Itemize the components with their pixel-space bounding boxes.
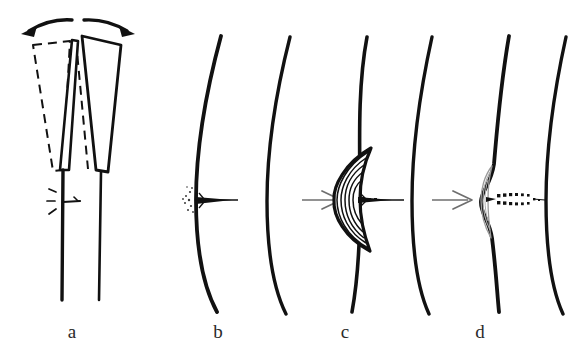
panel-label-a: a [52,322,92,342]
wall-inner-d [546,37,566,314]
lower-wall-left [62,170,63,300]
figure-canvas [0,0,582,360]
defect-wedge-b [196,193,238,208]
solid-wall-right [82,36,121,172]
stipple-cloud-b [182,186,194,213]
transition-arrow-c-to-d [432,191,472,209]
panel-label-c: c [325,322,365,342]
panel-c [334,37,432,314]
panel-label-d: d [460,322,500,342]
panel-a [21,20,135,300]
figure-container: a b c d [0,0,582,360]
panel-b [182,36,290,314]
panel-label-b: b [198,322,238,342]
wall-outer-d [481,36,509,312]
panel-d [481,36,566,314]
wall-inner-b [267,37,290,314]
wall-outer-b [196,36,221,312]
solid-wall-left [60,40,78,170]
lower-wall-right [99,172,101,300]
dotted-trail-d [486,193,545,205]
defect-wedge-c [358,193,404,207]
arrow-left-curved [21,20,72,37]
wall-inner-c [412,37,432,314]
arrow-right-curved [84,20,135,37]
